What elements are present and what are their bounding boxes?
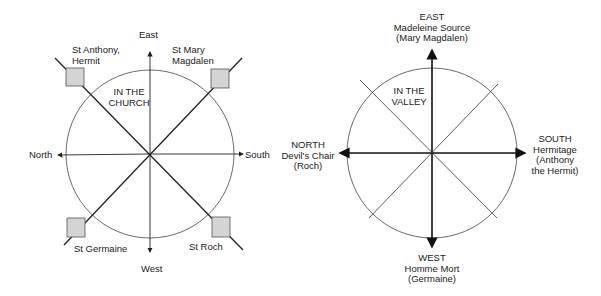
valley-west-label: WEST Homme Mort (Germaine) (382, 253, 482, 285)
valley-diagram (340, 50, 525, 247)
saint-roch-label: St Roch (189, 242, 223, 253)
square-roch (212, 217, 230, 237)
valley-title: IN THE VALLEY (387, 86, 431, 107)
church-diagram (55, 52, 243, 252)
valley-north-label: NORTH Devil's Chair (Roch) (280, 140, 336, 172)
north-arrow (58, 154, 150, 155)
church-east-label: East (139, 30, 158, 41)
church-west-label: West (141, 264, 162, 275)
square-anthony (66, 68, 84, 86)
church-north-label: North (29, 150, 52, 161)
square-germaine (67, 218, 85, 237)
valley-east-label: EAST Madeleine Source (Mary Magdalen) (382, 12, 482, 44)
church-south-label: South (245, 150, 270, 161)
square-mary (211, 69, 229, 88)
saint-anthony-label: St Anthony, Hermit (72, 45, 120, 66)
saint-mary-label: St Mary Magdalen (172, 45, 214, 66)
church-title: IN THE CHURCH (104, 87, 154, 108)
valley-south-label: SOUTH Hermitage (Anthony the Hermit) (527, 134, 583, 176)
saint-germaine-label: St Germaine (74, 244, 127, 255)
